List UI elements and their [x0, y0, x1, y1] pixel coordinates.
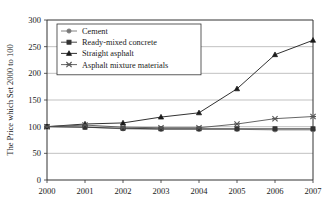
square-marker [235, 127, 239, 131]
chart-canvas: 050100150200250300 200020012002200320042… [0, 0, 334, 207]
y-tick-label: 0 [37, 175, 41, 185]
legend-label: Asphalt mixture materials [82, 61, 168, 70]
y-tick-label: 100 [28, 122, 41, 132]
x-tick-label: 2001 [77, 186, 94, 196]
x-tick-label: 2007 [305, 186, 322, 196]
y-tick-label: 150 [28, 95, 41, 105]
x-tick-label: 2000 [39, 186, 56, 196]
square-marker [311, 127, 315, 131]
square-marker [67, 40, 71, 44]
line-chart: 050100150200250300 200020012002200320042… [0, 0, 334, 207]
x-tick-label: 2003 [153, 186, 170, 196]
chart-legend: CementReady-mixed concreteStraight aspha… [57, 24, 201, 75]
x-tick-label: 2002 [115, 186, 132, 196]
x-tick-label: 2006 [267, 186, 284, 196]
y-tick-label: 50 [33, 148, 42, 158]
y-tick-label: 300 [28, 15, 41, 25]
y-tick-label: 200 [28, 68, 41, 78]
legend-label: Cement [82, 27, 109, 36]
x-tick-label: 2004 [191, 186, 209, 196]
y-tick-label: 250 [28, 42, 41, 52]
x-tick-label: 2005 [229, 186, 246, 196]
legend-label: Ready-mixed concrete [82, 38, 157, 47]
square-marker [273, 127, 277, 131]
circle-marker [67, 29, 71, 33]
y-axis-title: The Price which Set 2000 to 100 [5, 44, 15, 155]
legend-label: Straight asphalt [82, 49, 135, 58]
